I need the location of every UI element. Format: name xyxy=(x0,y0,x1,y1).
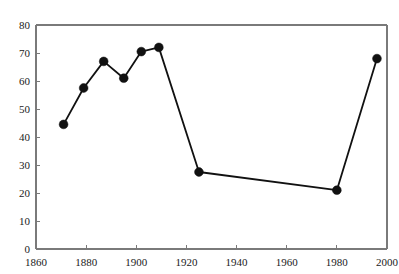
data-point xyxy=(119,74,128,83)
data-point xyxy=(373,54,382,63)
data-point xyxy=(154,43,163,52)
y-tick-label: 0 xyxy=(25,243,31,255)
x-tick-label: 1940 xyxy=(226,256,249,268)
data-point xyxy=(332,186,341,195)
x-tick-label: 1880 xyxy=(75,256,98,268)
y-tick-label: 70 xyxy=(19,47,31,59)
data-series xyxy=(59,43,381,195)
x-tick-label: 1960 xyxy=(276,256,299,268)
y-tick-label: 80 xyxy=(19,19,31,31)
y-tick-label: 30 xyxy=(19,159,31,171)
y-tick-label: 50 xyxy=(19,103,31,115)
chart-canvas: 0102030405060708018601880190019201940196… xyxy=(0,0,399,274)
data-point xyxy=(99,57,108,66)
data-point xyxy=(137,47,146,56)
data-point xyxy=(79,84,88,93)
y-tick-label: 10 xyxy=(19,215,31,227)
x-tick-label: 1900 xyxy=(125,256,148,268)
x-tick-label: 1980 xyxy=(326,256,349,268)
y-tick-label: 20 xyxy=(19,187,31,199)
x-tick-label: 1920 xyxy=(175,256,198,268)
y-tick-label: 40 xyxy=(19,131,31,143)
series-line xyxy=(64,47,377,190)
axis-frame xyxy=(36,25,387,249)
line-chart: 0102030405060708018601880190019201940196… xyxy=(0,0,399,274)
x-tick-label: 2000 xyxy=(376,256,399,268)
data-point xyxy=(195,168,204,177)
data-point xyxy=(59,120,68,129)
y-tick-label: 60 xyxy=(19,75,31,87)
x-tick-label: 1860 xyxy=(25,256,48,268)
y-axis: 01020304050607080 xyxy=(19,19,40,255)
